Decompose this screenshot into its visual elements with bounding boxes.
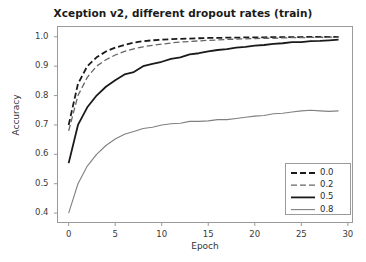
x-tick-label: 25 <box>289 229 313 239</box>
y-tick-label: 0.4 <box>25 207 49 217</box>
x-tick-label: 15 <box>196 229 220 239</box>
x-tick-label: 0 <box>57 229 81 239</box>
y-tick-label: 0.9 <box>25 60 49 70</box>
y-tick-label: 0.8 <box>25 90 49 100</box>
x-axis-label: Epoch <box>57 241 353 251</box>
legend-label-0.0: 0.0 <box>320 167 334 177</box>
chart-figure: Xception v2, different dropout rates (tr… <box>0 0 366 262</box>
y-tick-label: 0.6 <box>25 148 49 158</box>
x-tick-label: 10 <box>150 229 174 239</box>
x-tick-label: 30 <box>336 229 360 239</box>
legend-label-0.8: 0.8 <box>320 204 334 214</box>
plot-area <box>0 0 366 262</box>
y-axis-label: Accuracy <box>11 80 21 150</box>
legend-box <box>286 164 351 215</box>
legend-label-0.5: 0.5 <box>320 191 334 201</box>
y-tick-label: 1.0 <box>25 31 49 41</box>
y-tick-label: 0.5 <box>25 178 49 188</box>
legend-label-0.2: 0.2 <box>320 179 334 189</box>
x-tick-label: 20 <box>243 229 267 239</box>
x-tick-label: 5 <box>103 229 127 239</box>
y-tick-label: 0.7 <box>25 119 49 129</box>
